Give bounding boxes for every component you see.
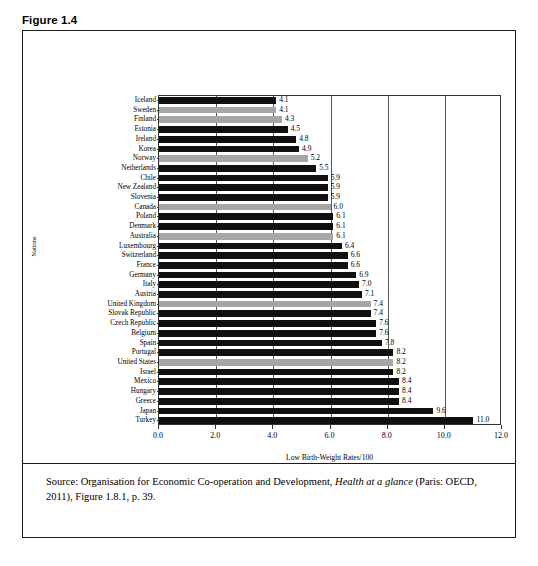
bar-row: Israel8.2 (159, 368, 500, 378)
bar-row: Korea4.9 (159, 145, 500, 155)
bar-row: Greece8.4 (159, 397, 500, 407)
category-label: Slovenia (131, 192, 156, 202)
bar-row: United Kingdom7.4 (159, 300, 500, 310)
source-divider (23, 463, 515, 464)
category-label: Italy (143, 279, 156, 289)
bar (159, 146, 299, 153)
category-label: Canada (134, 202, 156, 212)
x-tick-mark (272, 425, 273, 429)
bar-row: Portugal8.2 (159, 348, 500, 358)
bar-value-label: 4.1 (279, 105, 288, 115)
bar (159, 378, 399, 385)
x-tick-mark (501, 425, 502, 429)
bar-value-label: 5.2 (311, 153, 320, 163)
bar (159, 233, 333, 240)
bar-row: Japan9.6 (159, 407, 500, 417)
bar (159, 252, 348, 259)
bar-row: Australia6.1 (159, 232, 500, 242)
bar-value-label: 6.4 (345, 241, 354, 251)
x-tick-label: 2.0 (210, 431, 220, 440)
bar (159, 369, 393, 376)
bar-value-label: 8.4 (402, 396, 411, 406)
category-label: United States (117, 357, 156, 367)
bar (159, 204, 331, 211)
x-tick-mark (444, 425, 445, 429)
bar-row: United States8.2 (159, 358, 500, 368)
category-label: Switzerland (122, 250, 156, 260)
x-tick-label: 12.0 (494, 431, 508, 440)
bar (159, 291, 362, 298)
bar-row: Ireland4.8 (159, 135, 500, 145)
category-label: Spain (140, 338, 156, 348)
figure-number: Figure 1.4 (22, 12, 273, 28)
category-label: United Kingdom (107, 299, 156, 309)
bar-row: Switzerland6.6 (159, 251, 500, 261)
bar-row: Netherlands5.5 (159, 164, 500, 174)
bar (159, 175, 328, 182)
bar (159, 184, 328, 191)
category-label: Mexico (134, 376, 156, 386)
bar-value-label: 4.3 (285, 114, 294, 124)
bar (159, 340, 382, 347)
bar-value-label: 7.6 (379, 318, 388, 328)
bar-row: Mexico8.4 (159, 377, 500, 387)
x-tick-label: 0.0 (153, 431, 163, 440)
bar-value-label: 8.4 (402, 386, 411, 396)
bar (159, 281, 359, 288)
bar (159, 320, 376, 327)
category-label: Ireland (136, 134, 156, 144)
category-label: Hungary (131, 386, 156, 396)
x-tick-mark (158, 425, 159, 429)
bar-value-label: 7.6 (379, 328, 388, 338)
bar (159, 194, 328, 201)
bar-row: Hungary8.4 (159, 387, 500, 397)
bar (159, 155, 308, 162)
bar-row: Luxembourg6.4 (159, 242, 500, 252)
bar-value-label: 5.9 (331, 173, 340, 183)
bar-value-label: 8.2 (396, 357, 405, 367)
bar (159, 262, 348, 269)
bar (159, 301, 371, 308)
bar-row: Germany6.9 (159, 271, 500, 281)
category-label: Norway (133, 153, 156, 163)
bar-rows: Iceland4.1Sweden4.1Finland4.3Estonia4.5I… (159, 96, 500, 424)
bar (159, 330, 376, 337)
bar (159, 243, 342, 250)
x-tick-label: 10.0 (437, 431, 451, 440)
x-tick-label: 4.0 (267, 431, 277, 440)
category-label: Greece (136, 396, 156, 406)
x-tick-mark (387, 425, 388, 429)
bar-value-label: 4.1 (279, 95, 288, 105)
category-label: Belgium (131, 328, 156, 338)
bar-value-label: 7.4 (374, 308, 383, 318)
bar-row: Czech Republic7.6 (159, 319, 500, 329)
bar (159, 97, 276, 104)
bar-value-label: 8.2 (396, 347, 405, 357)
category-label: Chile (140, 173, 156, 183)
bar-row: Slovenia5.9 (159, 193, 500, 203)
bar-value-label: 7.1 (365, 289, 374, 299)
category-label: Austria (135, 289, 156, 299)
bar-row: Austria7.1 (159, 290, 500, 300)
x-tick-label: 6.0 (325, 431, 335, 440)
bar-value-label: 6.6 (351, 260, 360, 270)
bar (159, 398, 399, 405)
category-label: Estonia (134, 124, 156, 134)
bar (159, 136, 296, 143)
bar-row: Canada6.0 (159, 203, 500, 213)
bar-row: Estonia4.5 (159, 125, 500, 135)
bar-value-label: 4.8 (299, 134, 308, 144)
bar-row: Denmark6.1 (159, 222, 500, 232)
bar-value-label: 11.0 (476, 415, 489, 425)
bar-value-label: 6.1 (336, 221, 345, 231)
figure-container: Nations Iceland4.1Sweden4.1Finland4.3Est… (22, 30, 516, 538)
bar-row: Chile5.9 (159, 174, 500, 184)
bar (159, 213, 333, 220)
bar-row: Sweden4.1 (159, 106, 500, 116)
bar-row: Italy7.0 (159, 280, 500, 290)
bar-value-label: 6.1 (336, 211, 345, 221)
bar-row: France6.6 (159, 261, 500, 271)
category-label: France (136, 260, 156, 270)
category-label: Netherlands (121, 163, 156, 173)
bar-value-label: 5.9 (331, 182, 340, 192)
